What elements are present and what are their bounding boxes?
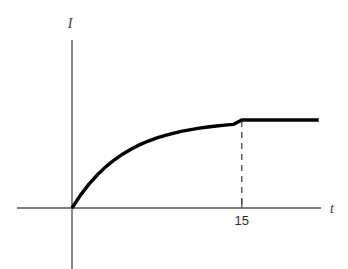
figure-root: I t 15: [0, 0, 348, 269]
graph-canvas: I t 15: [0, 0, 348, 269]
x-axis-tick-label-15: 15: [235, 213, 249, 228]
